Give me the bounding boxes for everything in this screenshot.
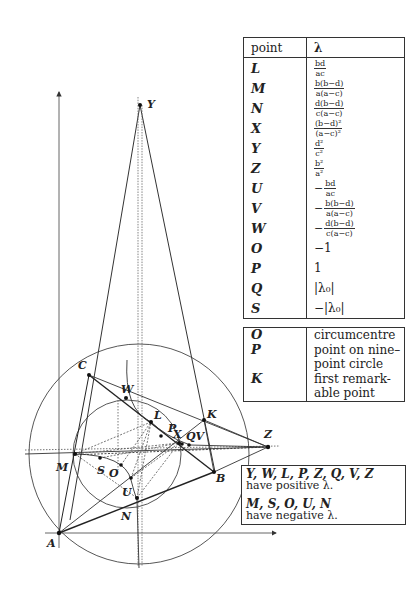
lambda-value: 1: [307, 258, 405, 278]
point-w: [124, 396, 128, 400]
point-l: [149, 420, 153, 424]
point-name: W: [244, 218, 307, 238]
table-row: U−bdac: [244, 178, 405, 198]
point-name: L: [244, 58, 307, 79]
point-n: [135, 496, 139, 500]
label-z: Z: [263, 428, 273, 441]
legend-desc: point on nine–point circle: [307, 343, 405, 372]
table-row: W−d(b−d)c(a−c): [244, 218, 405, 238]
legend-point: O: [244, 328, 307, 343]
point-o: [119, 463, 123, 467]
legend-row: O circumcentre: [244, 328, 405, 343]
negative-text: have negative λ.: [246, 510, 401, 522]
lambda-value: −|λ₀|: [307, 298, 405, 319]
point-a: [57, 531, 61, 535]
point-name: Z: [244, 158, 307, 178]
label-x: X: [172, 428, 182, 441]
point-name: N: [244, 98, 307, 118]
point-name: Y: [244, 138, 307, 158]
point-name: U: [244, 178, 307, 198]
point-v: [187, 443, 191, 447]
label-k: K: [206, 408, 217, 421]
label-b: B: [215, 472, 225, 485]
point-y: [138, 103, 142, 107]
table-row: Lbdac: [244, 58, 405, 79]
label-m: M: [55, 461, 69, 474]
point-k: [202, 418, 206, 422]
table-row: X(b−d)²(a−c)²: [244, 118, 405, 138]
point-s: [98, 456, 102, 460]
label-qv: QV: [186, 430, 206, 443]
lambda-value: (b−d)²(a−c)²: [307, 118, 405, 138]
label-s: S: [97, 464, 105, 477]
lambda-value: b(b−d)a(a−c): [307, 78, 405, 98]
table-row: O−1: [244, 238, 405, 258]
table-row: Mb(b−d)a(a−c): [244, 78, 405, 98]
lambda-value: −bdac: [307, 178, 405, 198]
legend-point: P: [244, 343, 307, 372]
point-z: [266, 445, 270, 449]
point-name: O: [244, 238, 307, 258]
lambda-value: −1: [307, 238, 405, 258]
point-labels: Y C W L P X QV K Z M S O U B N A: [46, 98, 273, 550]
points: [57, 103, 270, 535]
lambda-value: d(b−d)c(a−c): [307, 98, 405, 118]
point-name: S: [244, 298, 307, 319]
lambda-value: bdac: [307, 58, 405, 79]
point-name: X: [244, 118, 307, 138]
legend-row: P point on nine–point circle: [244, 343, 405, 372]
label-c: C: [78, 359, 87, 372]
label-y: Y: [147, 98, 156, 111]
table-row: P1: [244, 258, 405, 278]
lambda-value: −b(b−d)a(a−c): [307, 198, 405, 218]
point-c: [87, 373, 91, 377]
point-name: M: [244, 78, 307, 98]
sign-note: Y, W, L, P, Z, Q, V, Z have positive λ. …: [241, 465, 406, 525]
label-u: U: [122, 486, 133, 499]
header-lambda: λ: [307, 38, 405, 58]
legend-table: O circumcentre P point on nine–point cir…: [243, 327, 405, 402]
point-u: [129, 476, 133, 480]
table-row: Yd²c²: [244, 138, 405, 158]
point-p: [159, 434, 163, 438]
point-name: P: [244, 258, 307, 278]
point-q: [180, 442, 184, 446]
legend-desc: circumcentre: [307, 328, 405, 343]
label-a: A: [46, 537, 56, 550]
table-row: Zb²a²: [244, 158, 405, 178]
point-name: V: [244, 198, 307, 218]
legend-row: K first remark-able point: [244, 372, 405, 402]
lambda-value: −d(b−d)c(a−c): [307, 218, 405, 238]
point-name: Q: [244, 278, 307, 298]
table-row: V−b(b−d)a(a−c): [244, 198, 405, 218]
point-m: [73, 452, 77, 456]
table-row: S−|λ₀|: [244, 298, 405, 319]
label-o: O: [109, 467, 119, 480]
label-w: W: [121, 383, 135, 396]
table-row: Nd(b−d)c(a−c): [244, 98, 405, 118]
table-row: Q|λ₀|: [244, 278, 405, 298]
legend-point: K: [244, 372, 307, 402]
positive-text: have positive λ.: [246, 480, 401, 492]
lambda-value: |λ₀|: [307, 278, 405, 298]
lambda-table: point λ LbdacMb(b−d)a(a−c)Nd(b−d)c(a−c)X…: [243, 37, 405, 319]
header-point: point: [244, 38, 307, 58]
lines-to-y: [70, 97, 215, 566]
label-l: L: [153, 409, 162, 422]
lambda-value: b²a²: [307, 158, 405, 178]
legend-desc: first remark-able point: [307, 372, 405, 402]
label-n: N: [120, 510, 132, 523]
lambda-value: d²c²: [307, 138, 405, 158]
